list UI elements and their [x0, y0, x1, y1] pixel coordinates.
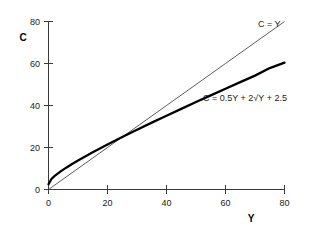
chart-container: 80 60 40 20 0 0 20 40 60 80 C Y C = Y C … — [0, 0, 327, 239]
x-tick-label-60: 60 — [220, 198, 230, 208]
x-tick-label-20: 20 — [102, 198, 112, 208]
y-tick-label-20: 20 — [30, 143, 40, 153]
x-tick-label-80: 80 — [279, 198, 289, 208]
x-tick-label-0: 0 — [46, 198, 51, 208]
x-axis-title: Y — [248, 213, 255, 224]
series-line-consumption-function — [49, 63, 285, 185]
series-line-c-equals-y — [49, 22, 285, 190]
y-tick-label-80: 80 — [30, 17, 40, 27]
x-tick-label-40: 40 — [161, 198, 171, 208]
y-axis-title: C — [19, 32, 26, 43]
line-chart-plot: 80 60 40 20 0 0 20 40 60 80 C Y C = Y C … — [0, 0, 327, 239]
series-label-consumption-function: C = 0.5Y + 2√Y + 2.5 — [203, 93, 287, 103]
series-label-c-equals-y: C = Y — [258, 19, 281, 29]
y-tick-label-0: 0 — [35, 185, 40, 195]
y-tick-label-40: 40 — [30, 101, 40, 111]
y-tick-label-60: 60 — [30, 59, 40, 69]
